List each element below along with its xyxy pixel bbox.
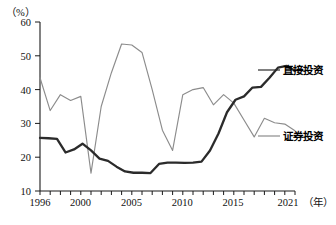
y-tick-label-30: 30 (21, 118, 32, 129)
y-tick-label-60: 60 (21, 17, 32, 28)
legend-label-securities: 证券投资 (283, 130, 324, 142)
x-axis-ticks (40, 191, 295, 195)
x-tick-label-1996: 1996 (30, 197, 51, 208)
x-tick-label-2010: 2010 (172, 197, 193, 208)
line-chart: （%） 60 50 40 30 20 10 1996 2000 2005 201… (0, 0, 336, 225)
x-tick-label-2005: 2005 (121, 197, 142, 208)
legend-label-direct: 直接投资 (283, 64, 324, 76)
y-axis-ticks (35, 22, 40, 191)
series-line-direct (40, 66, 295, 173)
x-axis-year-suffix: （年） (303, 196, 333, 208)
y-tick-label-20: 20 (21, 152, 32, 163)
x-tick-label-2021: 2021 (278, 197, 299, 208)
y-tick-label-50: 50 (21, 51, 32, 62)
x-tick-label-2015: 2015 (223, 197, 244, 208)
chart-container: （%） 60 50 40 30 20 10 1996 2000 2005 201… (0, 0, 336, 225)
series-line-securities (40, 44, 295, 173)
y-tick-label-40: 40 (21, 85, 32, 96)
y-tick-label-10: 10 (21, 186, 32, 197)
x-tick-label-2000: 2000 (70, 197, 91, 208)
